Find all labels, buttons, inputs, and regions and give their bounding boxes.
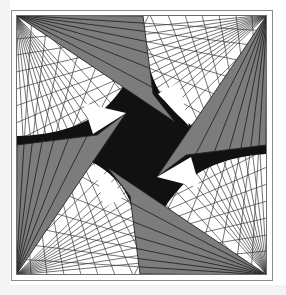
page-margin-tint-left [0, 0, 10, 295]
geometric-figure [0, 0, 286, 295]
page-margin-tint-bottom [0, 285, 286, 295]
artwork-page: Square framed op-art figure with four co… [0, 0, 286, 295]
